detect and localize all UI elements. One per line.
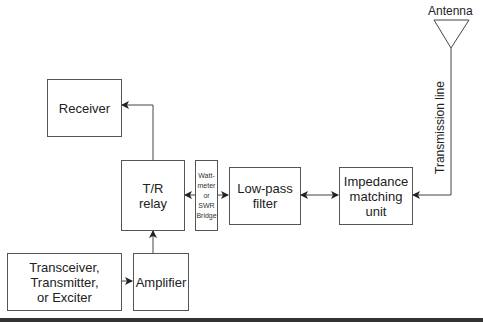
transmission-line-label: Transmission line xyxy=(433,81,447,174)
amplifier-label: Amplifier xyxy=(136,275,187,290)
impedance-matching-block: Impedance matching unit xyxy=(339,167,413,225)
wattmeter-label: Watt- meter or SWR Bridge xyxy=(196,171,216,221)
tr-relay-label: T/R relay xyxy=(139,181,167,211)
impedance-matching-label: Impedance matching unit xyxy=(344,174,408,219)
low-pass-filter-label: Low-pass filter xyxy=(237,181,293,211)
bottom-border xyxy=(0,318,483,322)
tr-to-receiver-arrow xyxy=(122,105,153,160)
wattmeter-block: Watt- meter or SWR Bridge xyxy=(195,160,218,231)
transceiver-block: Transceiver, Transmitter, or Exciter xyxy=(7,253,122,311)
tr-relay-block: T/R relay xyxy=(121,160,185,231)
receiver-block: Receiver xyxy=(47,79,122,137)
low-pass-filter-block: Low-pass filter xyxy=(229,167,301,225)
receiver-label: Receiver xyxy=(59,101,110,116)
transceiver-label: Transceiver, Transmitter, or Exciter xyxy=(29,260,99,305)
amplifier-block: Amplifier xyxy=(133,253,189,311)
antenna-icon xyxy=(434,20,469,48)
antenna-label: Antenna xyxy=(428,4,473,18)
